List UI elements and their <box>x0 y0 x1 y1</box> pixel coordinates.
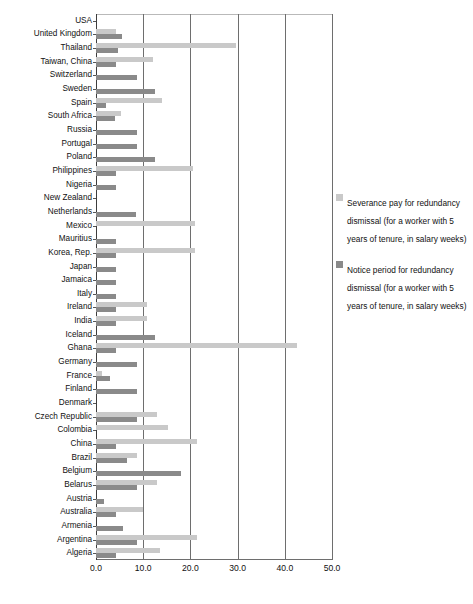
bar-notice <box>96 75 137 80</box>
bar-notice <box>96 444 116 449</box>
y-tick-label: Ghana <box>0 343 92 352</box>
y-tick-label: Japan <box>0 262 92 271</box>
y-tick-label: Armenia <box>0 521 92 530</box>
y-tick-label: India <box>0 316 92 325</box>
y-tick-label: Nigeria <box>0 180 92 189</box>
y-tick-label: Czech Republic <box>0 412 92 421</box>
y-tick-mark <box>93 21 96 22</box>
legend-swatch-notice-icon <box>336 261 343 268</box>
y-tick-label: Mexico <box>0 221 92 230</box>
bar-group <box>96 232 332 246</box>
y-tick-label: United Kingdom <box>0 29 92 38</box>
y-tick-label: Denmark <box>0 398 92 407</box>
y-tick-label: Italy <box>0 289 92 298</box>
bar-group <box>96 451 332 465</box>
bar-group <box>96 424 332 438</box>
plot-area <box>96 14 332 560</box>
y-tick-label: Russia <box>0 125 92 134</box>
bar-group <box>96 287 332 301</box>
bar-notice <box>96 321 116 326</box>
bar-notice <box>96 471 181 476</box>
bar-group <box>96 492 332 506</box>
y-tick-mark <box>93 198 96 199</box>
bar-group <box>96 478 332 492</box>
bar-notice <box>96 348 116 353</box>
bar-group <box>96 437 332 451</box>
bar-group <box>96 383 332 397</box>
y-tick-label: Sweden <box>0 84 92 93</box>
chart-container: USAUnited KingdomThailandTaiwan, ChinaSw… <box>0 0 473 604</box>
y-axis-labels: USAUnited KingdomThailandTaiwan, ChinaSw… <box>0 14 92 560</box>
y-tick-label: Austria <box>0 494 92 503</box>
x-tick-label: 20.0 <box>182 563 199 573</box>
bar-notice <box>96 144 137 149</box>
y-tick-mark <box>93 403 96 404</box>
bar-group <box>96 260 332 274</box>
bar-group <box>96 205 332 219</box>
bar-notice <box>96 253 116 258</box>
bar-group <box>96 219 332 233</box>
bar-group <box>96 55 332 69</box>
y-tick-label: New Zealand <box>0 193 92 202</box>
gridline-50.0 <box>332 14 333 560</box>
bar-group <box>96 123 332 137</box>
bar-group <box>96 178 332 192</box>
bar-notice <box>96 526 123 531</box>
bar-notice <box>96 34 122 39</box>
x-tick-label: 50.0 <box>324 563 341 573</box>
bar-group <box>96 533 332 547</box>
bar-group <box>96 505 332 519</box>
x-tick-label: 0.0 <box>90 563 102 573</box>
bar-notice <box>96 267 116 272</box>
bar-group <box>96 14 332 28</box>
bar-notice <box>96 335 155 340</box>
y-tick-label: Spain <box>0 98 92 107</box>
bar-group <box>96 191 332 205</box>
y-tick-label: Portugal <box>0 139 92 148</box>
y-tick-label: USA <box>0 16 92 25</box>
bar-rows <box>96 14 332 560</box>
bar-group <box>96 546 332 560</box>
bar-group <box>96 96 332 110</box>
y-tick-label: Jamaica <box>0 275 92 284</box>
bar-group <box>96 28 332 42</box>
legend-label-notice: Notice period for redundancy dismissal (… <box>347 265 466 311</box>
bar-group <box>96 355 332 369</box>
y-tick-label: Mauritius <box>0 234 92 243</box>
bar-notice <box>96 376 110 381</box>
bar-group <box>96 328 332 342</box>
y-tick-label: Switzerland <box>0 70 92 79</box>
bar-group <box>96 41 332 55</box>
x-tick-label: 40.0 <box>276 563 293 573</box>
bar-notice <box>96 499 104 504</box>
bar-notice <box>96 212 136 217</box>
bar-severance <box>96 221 195 226</box>
y-tick-label: South Africa <box>0 111 92 120</box>
bar-notice <box>96 362 137 367</box>
bar-notice <box>96 103 106 108</box>
y-tick-label: Philippines <box>0 166 92 175</box>
y-tick-label: Poland <box>0 152 92 161</box>
bar-notice <box>96 239 116 244</box>
bar-notice <box>96 512 116 517</box>
legend-item-severance: Severance pay for redundancy dismissal (… <box>336 192 469 246</box>
bar-notice <box>96 48 118 53</box>
y-tick-mark <box>93 430 96 431</box>
y-tick-label: Algeria <box>0 548 92 557</box>
bar-group <box>96 369 332 383</box>
bar-notice <box>96 389 137 394</box>
legend-label-severance: Severance pay for redundancy dismissal (… <box>347 198 466 244</box>
x-axis-labels: 0.010.020.030.040.050.0 <box>0 563 473 577</box>
bar-group <box>96 246 332 260</box>
bar-group <box>96 396 332 410</box>
y-tick-label: Argentina <box>0 535 92 544</box>
bar-notice <box>96 294 116 299</box>
bar-group <box>96 314 332 328</box>
bar-notice <box>96 458 127 463</box>
legend-item-notice: Notice period for redundancy dismissal (… <box>336 259 469 313</box>
y-tick-label: China <box>0 439 92 448</box>
bar-group <box>96 110 332 124</box>
y-tick-mark <box>93 226 96 227</box>
bar-group <box>96 164 332 178</box>
bar-notice <box>96 485 137 490</box>
